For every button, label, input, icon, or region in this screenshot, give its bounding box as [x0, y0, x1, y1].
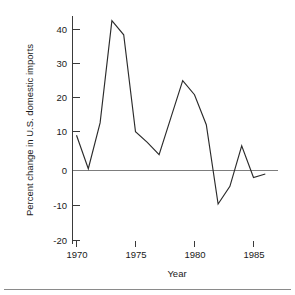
- y-tick-label: 10: [56, 126, 67, 137]
- x-tick-label: 1975: [125, 249, 146, 260]
- y-tick-label: 40: [56, 24, 67, 35]
- y-tick-label: 20: [56, 92, 67, 103]
- chart-figure: 40 30 20 10 0 -10 -20 Percent change in …: [0, 0, 295, 295]
- x-tick-label: 1980: [184, 249, 205, 260]
- y-axis-title: Percent change in U.S. domestic imports: [24, 44, 35, 216]
- x-tick-label: 1985: [243, 249, 264, 260]
- y-tick-label: 0: [62, 165, 67, 176]
- x-axis-title: Year: [167, 268, 186, 279]
- y-tick-label: 30: [56, 58, 67, 69]
- y-tick-label: -20: [53, 235, 67, 246]
- x-tick-label: 1970: [66, 249, 87, 260]
- y-tick-label: -10: [53, 200, 67, 211]
- line-chart-svg: 40 30 20 10 0 -10 -20 Percent change in …: [0, 0, 295, 295]
